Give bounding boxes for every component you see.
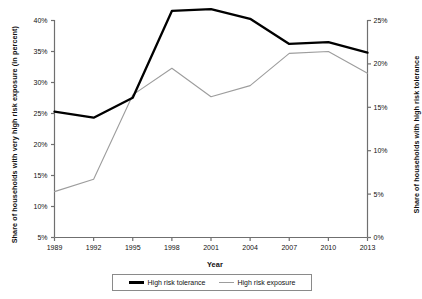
legend-line-icon-exposure <box>219 282 234 283</box>
x-tick-label: 2010 <box>310 244 346 251</box>
right-y-axis-title: Share of households with high risk toler… <box>413 24 420 246</box>
x-tick-label: 1989 <box>37 244 73 251</box>
series-lines <box>55 9 368 191</box>
left-y-tick-label: 40% <box>22 17 48 24</box>
left-y-tick-label: 15% <box>22 172 48 179</box>
left-y-tick-label: 10% <box>22 203 48 210</box>
legend-label-exposure: High risk exposure <box>238 279 296 286</box>
x-axis-title: Year <box>55 261 375 268</box>
right-y-tick-label: 10% <box>374 147 400 154</box>
chart-container: Share of households with very high risk … <box>0 0 422 299</box>
x-tick-label: 2004 <box>232 244 268 251</box>
tick-marks <box>51 21 371 242</box>
x-tick-label: 1995 <box>115 244 151 251</box>
legend-item-high-risk-tolerance: High risk tolerance <box>129 279 206 286</box>
left-y-tick-label: 30% <box>22 79 48 86</box>
left-y-tick-label: 25% <box>22 110 48 117</box>
right-y-tick-label: 0% <box>374 234 400 241</box>
right-y-tick-label: 15% <box>374 104 400 111</box>
chart-legend: High risk tolerance High risk exposure <box>112 274 312 291</box>
plot-area <box>0 0 422 299</box>
left-y-tick-label: 35% <box>22 48 48 55</box>
right-y-tick-label: 25% <box>374 17 400 24</box>
x-tick-label: 1998 <box>154 244 190 251</box>
left-y-tick-label: 5% <box>22 234 48 241</box>
x-tick-label: 1992 <box>76 244 112 251</box>
left-y-axis-title: Share of households with very high risk … <box>11 24 18 246</box>
series-line-high-risk-tolerance <box>55 9 368 118</box>
right-y-tick-label: 5% <box>374 191 400 198</box>
x-tick-label: 2013 <box>350 244 386 251</box>
legend-label-tolerance: High risk tolerance <box>148 279 206 286</box>
legend-item-high-risk-exposure: High risk exposure <box>219 279 296 286</box>
x-tick-label: 2001 <box>193 244 229 251</box>
x-tick-label: 2007 <box>271 244 307 251</box>
axis-lines <box>55 20 368 238</box>
right-y-tick-label: 20% <box>374 60 400 67</box>
legend-line-icon-tolerance <box>129 281 144 283</box>
left-y-tick-label: 20% <box>22 141 48 148</box>
series-line-high-risk-exposure <box>55 52 368 192</box>
